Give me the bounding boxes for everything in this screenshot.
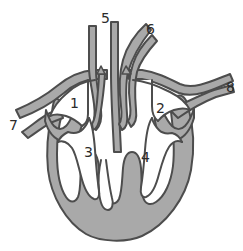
label-2: 2 [156,101,165,115]
heart-tissue-group [16,22,234,241]
heart-diagram-svg [0,0,243,251]
label-1: 1 [70,96,79,110]
label-3: 3 [84,145,93,159]
heart-diagram-figure: 1 2 3 4 5 6 7 8 [0,0,243,251]
label-7: 7 [9,118,18,132]
label-4: 4 [141,150,150,164]
label-5: 5 [101,11,110,25]
label-6: 6 [146,22,155,36]
label-8: 8 [226,80,235,94]
valve-notch-left [97,66,105,74]
